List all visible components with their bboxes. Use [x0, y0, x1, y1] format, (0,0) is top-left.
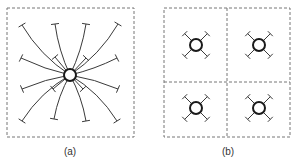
terminal-cap: [82, 23, 90, 24]
cell-1: [182, 31, 210, 59]
terminal-cap: [19, 54, 22, 61]
local-node: [190, 102, 202, 114]
diagram-canvas: [0, 0, 295, 164]
local-node: [190, 39, 202, 51]
terminal-cap: [115, 22, 122, 26]
connection-line: [70, 75, 86, 121]
connection-line: [22, 25, 70, 75]
connection-line: [55, 24, 70, 75]
cell-3: [182, 94, 210, 122]
central-node: [64, 69, 76, 81]
terminal-cap: [50, 118, 58, 119]
cell-4: [245, 94, 273, 122]
panel-a-centralized: [7, 8, 134, 137]
terminal-cap: [19, 23, 26, 27]
terminal-cap: [115, 54, 119, 61]
panel-b-distributed: [164, 8, 290, 137]
terminal-cap: [51, 23, 59, 24]
cell-2: [245, 31, 273, 59]
terminal-cap: [19, 119, 26, 123]
terminal-cap: [52, 54, 58, 59]
panel-a-label: (a): [64, 146, 76, 157]
local-node: [253, 39, 265, 51]
terminal-cap: [114, 119, 121, 123]
connection-line: [22, 75, 70, 121]
connection-line: [70, 75, 118, 89]
terminal-cap: [82, 120, 90, 121]
connection-line: [70, 58, 117, 75]
connection-line: [22, 75, 70, 89]
local-node: [253, 102, 265, 114]
panel-b-label: (b): [222, 146, 234, 157]
connection-line: [70, 24, 86, 75]
